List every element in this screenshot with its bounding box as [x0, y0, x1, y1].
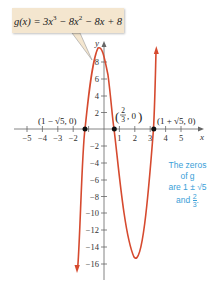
function-label: g(x) = 3x3 − 8x2 − 8x + 8	[12, 8, 124, 33]
svg-text:−4: −4	[38, 133, 48, 143]
svg-text:−4: −4	[90, 158, 100, 168]
y-axis-label: y	[94, 38, 99, 48]
svg-text:3: 3	[121, 115, 125, 124]
zero-label-3: (1 + √5, 0)	[157, 116, 196, 126]
y-tick-labels: 8 6 4 2 −2 −4 −6 −8 −10 −12 −14 −16	[86, 57, 100, 269]
x-tick-labels: −5 −4 −3 −2 1 2 3 4 5	[22, 133, 183, 143]
zero-label-1: (1 − √5, 0)	[38, 116, 77, 126]
svg-text:−12: −12	[86, 225, 99, 235]
svg-text:−16: −16	[86, 259, 99, 269]
svg-text:): )	[138, 109, 142, 124]
svg-text:3: 3	[148, 133, 152, 143]
svg-text:−8: −8	[90, 192, 99, 202]
y-axis-arrow-icon	[102, 41, 107, 47]
x-axis-arrow-icon	[198, 127, 204, 132]
svg-text:−2: −2	[69, 133, 78, 143]
svg-text:2: 2	[95, 108, 99, 118]
svg-text:−5: −5	[22, 133, 31, 143]
svg-text:(: (	[115, 109, 119, 124]
graph-canvas: −5 −4 −3 −2 1 2 3 4 5 8 6 4 2 −2 −4 −6 −…	[0, 0, 215, 281]
svg-text:2: 2	[121, 106, 125, 115]
svg-text:6: 6	[95, 74, 99, 84]
svg-text:1: 1	[117, 133, 121, 143]
svg-text:4: 4	[95, 91, 100, 101]
zero-label-2: ( 2 3 , 0 )	[115, 106, 142, 124]
zero-point-1	[83, 127, 88, 132]
label-pointer	[72, 33, 92, 60]
zeros-annotation: The zeros of g are 1 ± √5 and 23.	[160, 160, 215, 208]
svg-text:−10: −10	[86, 208, 99, 218]
svg-text:−6: −6	[90, 175, 99, 185]
zero-point-2	[112, 127, 117, 132]
svg-text:2: 2	[133, 133, 137, 143]
svg-text:, 0: , 0	[127, 111, 137, 121]
curve-arrow-up-icon	[154, 46, 159, 54]
svg-text:5: 5	[179, 133, 183, 143]
curve-arrow-down-icon	[75, 265, 80, 273]
svg-text:4: 4	[163, 133, 168, 143]
function-label-text: g(x) = 3x3 − 8x2 − 8x + 8	[14, 14, 122, 27]
svg-text:−3: −3	[53, 133, 62, 143]
zero-point-3	[151, 127, 156, 132]
svg-text:−14: −14	[86, 242, 100, 252]
x-axis-label: x	[199, 132, 204, 142]
svg-text:−2: −2	[90, 141, 99, 151]
